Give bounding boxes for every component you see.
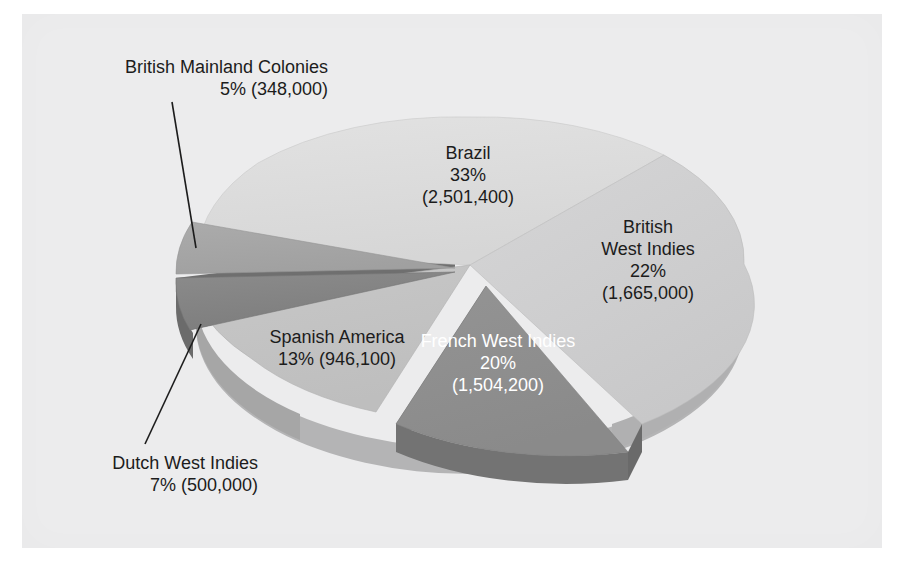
- slice-label-name: Brazil: [368, 142, 568, 164]
- slice-label-name: British Mainland Colonies: [28, 56, 328, 78]
- slice-label-percent: 33%: [368, 164, 568, 186]
- slice-label-name-line2: West Indies: [548, 238, 748, 260]
- slice-label-name-line1: British: [548, 216, 748, 238]
- slice-label-value: (1,665,000): [548, 282, 748, 304]
- slice-label-british-west-indies: British West Indies 22% (1,665,000): [548, 216, 748, 304]
- slice-label-name: Dutch West Indies: [28, 452, 258, 474]
- slice-label-brazil: Brazil 33% (2,501,400): [368, 142, 568, 208]
- slice-label-dutch-west-indies: Dutch West Indies 7% (500,000): [28, 452, 258, 496]
- slice-label-spanish-america: Spanish America 13% (946,100): [232, 326, 442, 370]
- slice-label-percent: 22%: [548, 260, 748, 282]
- slice-label-value: (2,501,400): [368, 186, 568, 208]
- pie-chart-figure: British Mainland Colonies 5% (348,000) D…: [0, 0, 904, 570]
- slice-label-value: (1,504,200): [388, 374, 608, 396]
- leader-line-dutch-west-indies: [145, 324, 201, 444]
- slice-label-value: 5% (348,000): [28, 78, 328, 100]
- slice-label-british-mainland-colonies: British Mainland Colonies 5% (348,000): [28, 56, 328, 100]
- slice-label-value: 7% (500,000): [28, 474, 258, 496]
- slice-label-value: 13% (946,100): [232, 348, 442, 370]
- slice-label-name: Spanish America: [232, 326, 442, 348]
- leader-line-british-mainland-colonies: [172, 102, 196, 248]
